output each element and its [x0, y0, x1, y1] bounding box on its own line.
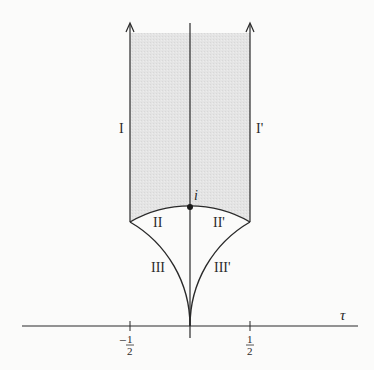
- svg-text:2: 2: [127, 345, 133, 357]
- region-label-II-prime: II': [213, 215, 225, 230]
- region-label-I: I: [119, 121, 124, 136]
- tick-label-minus-half: − 1 2: [119, 333, 134, 357]
- region-label-III: III: [151, 260, 165, 275]
- region-label-I-prime: I': [256, 121, 263, 136]
- figure-canvas: i I I' II II' III III' τ − 1 2 1 2: [0, 0, 374, 370]
- axis-label-tau: τ: [340, 307, 346, 323]
- region-label-II: II: [153, 215, 163, 230]
- svg-text:−: −: [119, 333, 126, 348]
- point-i-marker: [187, 204, 193, 210]
- region-label-III-prime: III': [214, 260, 231, 275]
- modular-domain-diagram: i I I' II II' III III' τ − 1 2 1 2: [0, 0, 374, 370]
- tick-label-plus-half: 1 2: [246, 333, 254, 357]
- svg-text:1: 1: [247, 333, 253, 345]
- svg-text:1: 1: [127, 333, 133, 345]
- point-i-label: i: [194, 188, 198, 203]
- svg-text:2: 2: [247, 345, 253, 357]
